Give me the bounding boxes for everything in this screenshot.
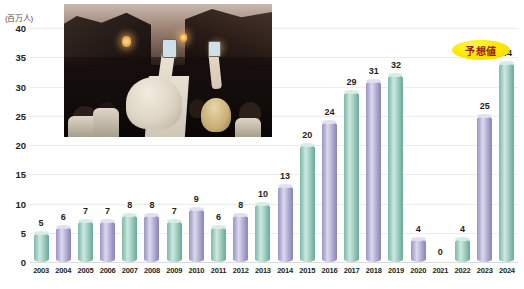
photo-person bbox=[235, 118, 261, 137]
photo-smartphone bbox=[208, 41, 221, 57]
bar-top-cap bbox=[144, 213, 159, 217]
x-axis-tick-label: 2019 bbox=[385, 266, 407, 275]
x-axis-tick-label: 2022 bbox=[451, 266, 473, 275]
x-axis-tick-label: 2023 bbox=[474, 266, 496, 275]
x-axis-tick-label: 2012 bbox=[230, 266, 252, 275]
bar-value-label: 8 bbox=[141, 200, 163, 210]
gridline bbox=[30, 262, 518, 263]
bar-slot: 4 bbox=[407, 28, 429, 262]
bar-top-cap bbox=[300, 143, 315, 147]
photo-white-hat bbox=[126, 77, 182, 129]
bar bbox=[144, 215, 159, 262]
bar-slot: 24 bbox=[318, 28, 340, 262]
y-axis-tick-label: 35 bbox=[0, 52, 26, 63]
bar-slot: 34 bbox=[496, 28, 518, 262]
x-axis-tick-label: 2016 bbox=[318, 266, 340, 275]
y-axis-tick-label: 30 bbox=[0, 81, 26, 92]
bar-top-cap bbox=[278, 184, 293, 188]
bar-value-label: 7 bbox=[74, 206, 96, 216]
bar-top-cap bbox=[78, 219, 93, 223]
bar bbox=[366, 81, 381, 262]
bar-top-cap bbox=[455, 237, 470, 241]
bar-value-label: 13 bbox=[274, 171, 296, 181]
bar-value-label: 5 bbox=[30, 218, 52, 228]
x-axis-tick-label: 2004 bbox=[52, 266, 74, 275]
x-axis-tick-label: 2005 bbox=[74, 266, 96, 275]
bar bbox=[388, 75, 403, 262]
bar-slot: 31 bbox=[363, 28, 385, 262]
bar-value-label: 24 bbox=[318, 107, 340, 117]
bar-value-label: 10 bbox=[252, 189, 274, 199]
bar-value-label: 7 bbox=[163, 206, 185, 216]
bar bbox=[499, 63, 514, 262]
bar-slot: 32 bbox=[385, 28, 407, 262]
bar bbox=[78, 221, 93, 262]
bar-value-label: 29 bbox=[341, 77, 363, 87]
bar-top-cap bbox=[233, 213, 248, 217]
bar-value-label: 20 bbox=[296, 130, 318, 140]
x-axis-tick-label: 2006 bbox=[97, 266, 119, 275]
bar-slot: 13 bbox=[274, 28, 296, 262]
bar bbox=[56, 227, 71, 262]
bar bbox=[322, 122, 337, 262]
bar-top-cap bbox=[211, 225, 226, 229]
x-axis-tick-label: 2021 bbox=[429, 266, 451, 275]
bar-value-label: 6 bbox=[52, 212, 74, 222]
x-axis-tick-label: 2020 bbox=[407, 266, 429, 275]
tourism-photo bbox=[64, 4, 272, 137]
y-axis-tick-label: 20 bbox=[0, 140, 26, 151]
tourism-bar-chart: (百万人) 0510152025303540 56778879681013202… bbox=[0, 0, 524, 289]
bar-value-label: 6 bbox=[207, 212, 229, 222]
bar bbox=[167, 221, 182, 262]
bar bbox=[189, 209, 204, 262]
y-axis-tick-label: 15 bbox=[0, 169, 26, 180]
bar-top-cap bbox=[499, 61, 514, 65]
photo-lantern bbox=[122, 36, 131, 47]
x-axis-tick-label: 2015 bbox=[296, 266, 318, 275]
bar-value-label: 31 bbox=[363, 66, 385, 76]
bar-value-label: 32 bbox=[385, 60, 407, 70]
x-axis-tick-label: 2003 bbox=[30, 266, 52, 275]
x-axis-tick-labels: 2003200420052006200720082009201020112012… bbox=[30, 266, 518, 282]
bar-value-label: 4 bbox=[407, 224, 429, 234]
x-axis-tick-label: 2018 bbox=[363, 266, 385, 275]
bar-value-label: 9 bbox=[185, 194, 207, 204]
x-axis-tick-label: 2009 bbox=[163, 266, 185, 275]
bar-top-cap bbox=[366, 79, 381, 83]
y-axis-tick-label: 5 bbox=[0, 227, 26, 238]
bar bbox=[255, 204, 270, 263]
bar-top-cap bbox=[411, 237, 426, 241]
photo-smartphone bbox=[162, 39, 177, 58]
bar-top-cap bbox=[322, 120, 337, 124]
forecast-badge-label: 予想値 bbox=[465, 43, 497, 58]
forecast-badge: 予想値 bbox=[452, 40, 510, 60]
x-axis-tick-label: 2014 bbox=[274, 266, 296, 275]
bar bbox=[411, 239, 426, 262]
bar-top-cap bbox=[189, 207, 204, 211]
y-axis-tick-label: 10 bbox=[0, 198, 26, 209]
bar bbox=[300, 145, 315, 262]
y-axis-tick-label: 40 bbox=[0, 23, 26, 34]
bar bbox=[344, 92, 359, 262]
bar-top-cap bbox=[100, 219, 115, 223]
y-axis-tick-label: 25 bbox=[0, 110, 26, 121]
bar-top-cap bbox=[34, 231, 49, 235]
bar bbox=[122, 215, 137, 262]
bar bbox=[211, 227, 226, 262]
x-axis-tick-label: 2017 bbox=[341, 266, 363, 275]
bar-slot: 5 bbox=[30, 28, 52, 262]
bar-top-cap bbox=[255, 202, 270, 206]
photo-person bbox=[93, 108, 119, 137]
x-axis-tick-label: 2008 bbox=[141, 266, 163, 275]
bar bbox=[34, 233, 49, 262]
bar-value-label: 25 bbox=[474, 101, 496, 111]
bar-value-label: 0 bbox=[429, 247, 451, 257]
bar bbox=[278, 186, 293, 262]
bar-top-cap bbox=[167, 219, 182, 223]
bar-value-label: 4 bbox=[451, 224, 473, 234]
x-axis-tick-label: 2013 bbox=[252, 266, 274, 275]
bar-top-cap bbox=[122, 213, 137, 217]
bar-slot: 4 bbox=[451, 28, 473, 262]
bar-value-label: 8 bbox=[119, 200, 141, 210]
bar-value-label: 7 bbox=[97, 206, 119, 216]
